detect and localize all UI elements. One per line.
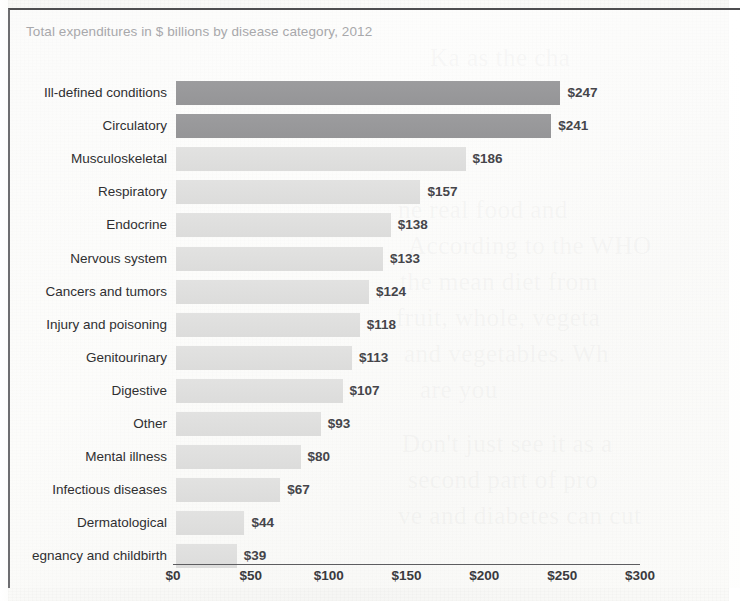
bar[interactable] (176, 213, 391, 237)
bar-row: Other$93 (0, 412, 729, 436)
bar[interactable] (176, 379, 343, 403)
x-axis-tick: $100 (314, 568, 344, 583)
bar-value-label: $107 (350, 379, 380, 403)
bar-row: Endocrine$138 (0, 213, 729, 237)
category-label: Other (0, 412, 167, 436)
x-axis-tick: $150 (391, 568, 421, 583)
bar-row: Injury and poisoning$118 (0, 313, 729, 337)
bar[interactable] (176, 445, 301, 469)
bar[interactable] (176, 313, 360, 337)
bar-value-label: $80 (308, 445, 331, 469)
bar-row: Nervous system$133 (0, 247, 729, 271)
category-label: Injury and poisoning (0, 313, 167, 337)
bar-value-label: $124 (376, 280, 406, 304)
bar-value-label: $157 (427, 180, 457, 204)
category-label: Respiratory (0, 180, 167, 204)
category-label: Mental illness (0, 445, 167, 469)
category-label: Musculoskeletal (0, 147, 167, 171)
bar[interactable] (176, 280, 369, 304)
category-label: Dermatological (0, 511, 167, 535)
bar-value-label: $118 (367, 313, 396, 337)
bar[interactable] (176, 114, 551, 138)
category-label: Ill-defined conditions (0, 81, 167, 105)
bar-value-label: $247 (567, 81, 597, 105)
x-axis-tick: $200 (469, 568, 499, 583)
bar-value-label: $186 (473, 147, 503, 171)
bar[interactable] (176, 412, 321, 436)
bar-row: Cancers and tumors$124 (0, 280, 729, 304)
bar-value-label: $67 (287, 478, 310, 502)
bar-value-label: $93 (328, 412, 351, 436)
category-label: Nervous system (0, 247, 167, 271)
bar-row: Infectious diseases$67 (0, 478, 729, 502)
x-axis-tick: $0 (165, 568, 180, 583)
bar[interactable] (176, 147, 466, 171)
bar-value-label: $241 (558, 114, 588, 138)
bar-value-label: $113 (359, 346, 388, 370)
bar-row: Mental illness$80 (0, 445, 729, 469)
x-axis-line (173, 564, 640, 565)
bar[interactable] (176, 478, 280, 502)
bar[interactable] (176, 247, 383, 271)
category-label: Endocrine (0, 213, 167, 237)
bar[interactable] (176, 180, 420, 204)
x-axis-tick: $300 (625, 568, 655, 583)
bar-value-label: $44 (251, 511, 274, 535)
bar[interactable] (176, 511, 244, 535)
category-label: Infectious diseases (0, 478, 167, 502)
category-label: Digestive (0, 379, 167, 403)
category-label: Circulatory (0, 114, 167, 138)
bar-row: Musculoskeletal$186 (0, 147, 729, 171)
bar-chart-plot-area: Ill-defined conditions$247Circulatory$24… (0, 64, 729, 564)
bar[interactable] (176, 346, 352, 370)
category-label: egnancy and childbirth (0, 544, 167, 568)
bar-value-label: $133 (390, 247, 420, 271)
x-axis-tick: $50 (240, 568, 263, 583)
bar-row: Dermatological$44 (0, 511, 729, 535)
bar-row: Respiratory$157 (0, 180, 729, 204)
bar-row: Digestive$107 (0, 379, 729, 403)
x-axis-tick: $250 (547, 568, 577, 583)
bar[interactable] (176, 81, 560, 105)
bar-value-label: $138 (398, 213, 428, 237)
bar-row: Circulatory$241 (0, 114, 729, 138)
bar-row: Ill-defined conditions$247 (0, 81, 729, 105)
page-left-edge-clip (0, 0, 8, 601)
chart-title: Total expenditures in $ billions by dise… (26, 24, 372, 39)
category-label: Genitourinary (0, 346, 167, 370)
bar-row: Genitourinary$113 (0, 346, 729, 370)
category-label: Cancers and tumors (0, 280, 167, 304)
